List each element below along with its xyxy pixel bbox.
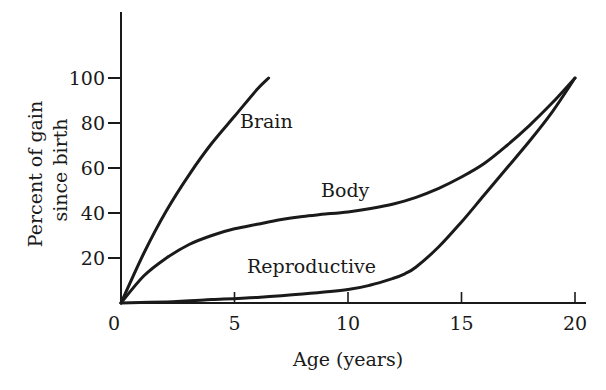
x-axis-title: Age (years) bbox=[292, 348, 403, 370]
y-axis-title-line2: since birth bbox=[49, 118, 71, 221]
y-axis-title: Percent of gain since birth bbox=[24, 101, 71, 247]
x-tick-label: 0 bbox=[108, 312, 120, 334]
y-tick-label: 60 bbox=[81, 157, 105, 179]
y-ticks: 20406080100 bbox=[69, 67, 121, 269]
x-ticks: 05101520 bbox=[108, 292, 587, 334]
y-tick-label: 20 bbox=[81, 247, 105, 269]
x-tick-label: 5 bbox=[228, 312, 240, 334]
growth-chart: 20406080100 05101520 Brain Body Reproduc… bbox=[0, 0, 606, 390]
brain-label: Brain bbox=[240, 110, 293, 132]
y-axis-title-line1: Percent of gain bbox=[24, 101, 46, 247]
y-tick-label: 100 bbox=[69, 67, 105, 89]
x-tick-label: 20 bbox=[563, 312, 587, 334]
x-tick-label: 10 bbox=[336, 312, 360, 334]
y-tick-label: 40 bbox=[81, 202, 105, 224]
body-label: Body bbox=[321, 179, 370, 201]
y-tick-label: 80 bbox=[81, 112, 105, 134]
x-tick-label: 15 bbox=[449, 312, 473, 334]
reproductive-label: Reproductive bbox=[247, 255, 376, 277]
